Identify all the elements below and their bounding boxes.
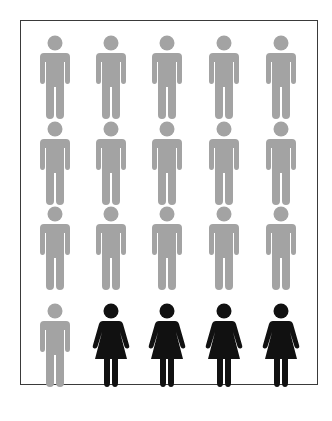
female-figure-icon: [91, 303, 131, 387]
male-figure-icon: [147, 35, 187, 119]
male-figure-icon: [91, 206, 131, 290]
male-figure-icon: [204, 206, 244, 290]
male-figure-icon: [91, 121, 131, 205]
male-figure-icon: [91, 35, 131, 119]
female-figure-icon: [261, 303, 301, 387]
male-figure-icon: [147, 121, 187, 205]
male-figure-icon: [261, 121, 301, 205]
male-figure-icon: [35, 206, 75, 290]
male-figure-icon: [204, 121, 244, 205]
male-figure-icon: [35, 121, 75, 205]
female-figure-icon: [204, 303, 244, 387]
pictogram-frame: [20, 20, 318, 385]
male-figure-icon: [147, 206, 187, 290]
female-figure-icon: [147, 303, 187, 387]
male-figure-icon: [35, 35, 75, 119]
male-figure-icon: [261, 206, 301, 290]
male-figure-icon: [204, 35, 244, 119]
pictogram-grid: [21, 21, 317, 384]
male-figure-icon: [35, 303, 75, 387]
male-figure-icon: [261, 35, 301, 119]
